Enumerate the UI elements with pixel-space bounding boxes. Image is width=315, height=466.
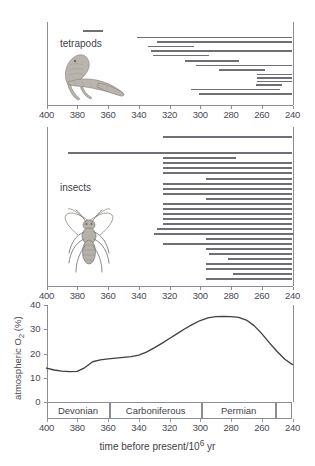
insect-silhouette bbox=[58, 205, 120, 277]
range-bar bbox=[257, 81, 292, 83]
o2-y-tick bbox=[44, 378, 47, 379]
period-label: Devonian bbox=[58, 405, 98, 416]
o2-y-tick bbox=[44, 305, 47, 306]
o2-x-tick-label: 380 bbox=[62, 422, 92, 433]
insects-x-tick-label: 260 bbox=[247, 290, 277, 301]
range-bar bbox=[185, 60, 239, 62]
o2-x-tick-label: 280 bbox=[216, 422, 246, 433]
insects-y-axis bbox=[47, 127, 48, 286]
insects-label: insects bbox=[60, 182, 91, 193]
range-bar bbox=[228, 258, 293, 260]
range-bar bbox=[163, 183, 292, 185]
insects-x-tick-label: 280 bbox=[216, 290, 246, 301]
tetrapods-x-tick-label: 320 bbox=[155, 109, 185, 120]
period-unlabeled bbox=[276, 402, 293, 419]
insects-x-tick-label: 360 bbox=[93, 290, 123, 301]
range-bar bbox=[206, 268, 292, 270]
insects-x-tick-label: 320 bbox=[155, 290, 185, 301]
o2-y-axis bbox=[47, 305, 48, 402]
range-bar bbox=[163, 218, 292, 220]
range-bar bbox=[206, 248, 292, 250]
range-bar bbox=[257, 74, 292, 76]
range-bar bbox=[163, 136, 292, 138]
o2-x-tick-label: 320 bbox=[155, 422, 185, 433]
range-bar bbox=[83, 30, 103, 32]
tetrapods-label: tetrapods bbox=[60, 38, 102, 49]
o2-y-tick bbox=[44, 329, 47, 330]
o2-x-tick-label: 240 bbox=[278, 422, 308, 433]
tetrapods-x-tick-label: 240 bbox=[278, 109, 308, 120]
range-bar bbox=[206, 238, 292, 240]
range-bar bbox=[163, 167, 292, 169]
insects-x-tick-label: 380 bbox=[62, 290, 92, 301]
range-bar bbox=[163, 162, 292, 164]
tetrapods-x-tick-label: 300 bbox=[185, 109, 215, 120]
tetrapods-x-tick-label: 400 bbox=[32, 109, 62, 120]
range-bar bbox=[233, 273, 293, 275]
range-bar bbox=[163, 213, 292, 215]
range-bar bbox=[209, 253, 292, 255]
tetrapods-x-tick-label: 380 bbox=[62, 109, 92, 120]
range-bar bbox=[163, 188, 292, 190]
o2-x-tick-label: 260 bbox=[247, 422, 277, 433]
range-bar bbox=[163, 223, 292, 225]
range-bar bbox=[153, 55, 210, 57]
range-bar bbox=[163, 157, 235, 159]
o2-y-axis-label: atmospheric O2 (%) bbox=[12, 316, 26, 400]
tetrapods-x-tick-label: 260 bbox=[247, 109, 277, 120]
range-bar bbox=[196, 65, 293, 67]
period-devonian: Devonian bbox=[47, 402, 110, 419]
o2-x-tick-label: 400 bbox=[32, 422, 62, 433]
insects-x-tick-label: 300 bbox=[185, 290, 215, 301]
insects-x-tick-label: 240 bbox=[278, 290, 308, 301]
insects-x-tick-label: 340 bbox=[124, 290, 154, 301]
tetrapod-silhouette bbox=[58, 52, 130, 102]
range-bar bbox=[157, 228, 292, 230]
o2-right-axis bbox=[293, 305, 294, 402]
tetrapods-right-axis bbox=[293, 22, 294, 105]
range-bar bbox=[163, 193, 292, 195]
insects-right-axis bbox=[293, 127, 294, 286]
range-bar bbox=[148, 46, 194, 48]
o2-y-tick bbox=[44, 354, 47, 355]
range-bar bbox=[163, 208, 292, 210]
range-bar bbox=[154, 233, 292, 235]
range-bar bbox=[191, 89, 280, 91]
period-permian: Permian bbox=[202, 402, 276, 419]
range-bar bbox=[206, 198, 292, 200]
o2-x-tick-label: 300 bbox=[185, 422, 215, 433]
range-bar bbox=[206, 278, 292, 280]
range-bar bbox=[163, 243, 292, 245]
range-bar bbox=[151, 50, 292, 52]
range-bar bbox=[206, 178, 292, 180]
o2-x-tick-label: 360 bbox=[93, 422, 123, 433]
period-carboniferous: Carboniferous bbox=[110, 402, 202, 419]
range-bar bbox=[68, 152, 292, 154]
x-axis-caption: time before present/106 yr bbox=[0, 438, 315, 452]
range-bar bbox=[219, 69, 265, 71]
tetrapods-x-tick-label: 360 bbox=[93, 109, 123, 120]
o2-x-tick-label: 340 bbox=[124, 422, 154, 433]
tetrapods-x-tick-label: 340 bbox=[124, 109, 154, 120]
range-bar bbox=[256, 84, 282, 86]
period-label: Carboniferous bbox=[126, 405, 186, 416]
range-bar bbox=[199, 93, 293, 95]
range-bar bbox=[206, 263, 292, 265]
period-label: Permian bbox=[221, 405, 256, 416]
range-bar bbox=[163, 172, 292, 174]
tetrapods-y-axis bbox=[47, 22, 48, 105]
o2-y-tick-label: 40 bbox=[23, 299, 41, 310]
range-bar bbox=[157, 41, 292, 43]
range-bar bbox=[163, 203, 292, 205]
tetrapods-x-tick-label: 280 bbox=[216, 109, 246, 120]
range-bar bbox=[257, 77, 292, 79]
range-bar bbox=[137, 37, 292, 39]
figure-root: 400380360340320300280260240tetrapods4003… bbox=[0, 0, 315, 466]
